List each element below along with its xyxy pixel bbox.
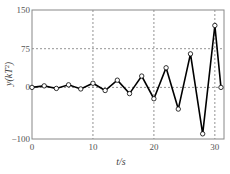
data-point-marker — [54, 86, 58, 90]
data-point-marker — [188, 52, 192, 56]
x-tick-label: 30 — [210, 142, 220, 152]
data-point-marker — [213, 23, 217, 27]
data-point-marker — [200, 132, 204, 136]
data-point-marker — [140, 74, 144, 78]
data-point-marker — [164, 66, 168, 70]
data-point-marker — [103, 88, 107, 92]
data-point-marker — [152, 97, 156, 101]
data-point-marker — [176, 107, 180, 111]
data-point-marker — [115, 78, 119, 82]
data-point-marker — [91, 81, 95, 85]
grid-lines — [32, 10, 224, 139]
x-axis-label: t/s — [116, 156, 126, 167]
data-point-marker — [42, 84, 46, 88]
data-point-marker — [79, 87, 83, 91]
data-series-line — [32, 25, 221, 133]
y-tick-label: −100 — [11, 134, 30, 144]
data-point-marker — [30, 85, 34, 89]
data-point-marker — [219, 85, 223, 89]
data-point-marker — [127, 91, 131, 95]
data-point-marker — [66, 83, 70, 87]
x-axis-ticks: 0102030 — [30, 142, 220, 152]
line-chart: −100075150 0102030 t/s y(kT²) — [0, 0, 230, 174]
x-tick-label: 0 — [30, 142, 35, 152]
y-tick-label: 75 — [21, 44, 31, 54]
plot-frame — [32, 10, 224, 139]
y-axis-ticks: −100075150 — [11, 5, 30, 144]
x-tick-label: 20 — [149, 142, 159, 152]
y-axis-label: y(kT²) — [3, 61, 15, 87]
y-tick-label: 150 — [17, 5, 31, 15]
x-tick-label: 10 — [88, 142, 98, 152]
